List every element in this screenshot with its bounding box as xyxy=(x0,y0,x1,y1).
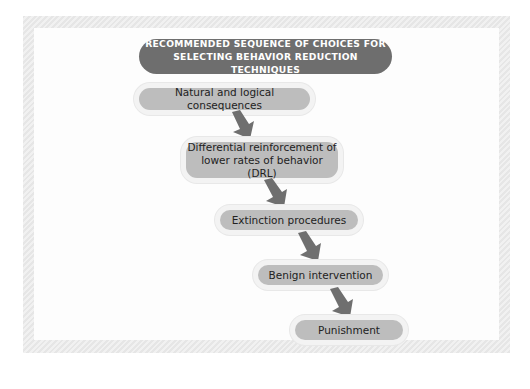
step-label: Extinction procedures xyxy=(232,214,347,227)
step-punishment: Punishment xyxy=(295,320,403,340)
step-label-line-2: lower rates of behavior (DRL) xyxy=(186,154,338,180)
diagram-title-line-2: SELECTING BEHAVIOR REDUCTION TECHNIQUES xyxy=(139,50,392,76)
step-label: Natural and logical consequences xyxy=(139,86,310,112)
step-benign-intervention: Benign intervention xyxy=(258,265,383,285)
down-right-arrow-icon xyxy=(296,231,328,263)
step-extinction-procedures: Extinction procedures xyxy=(220,210,358,230)
step-label: Punishment xyxy=(318,324,380,337)
step-differential-reinforcement-drl: Differential reinforcement of lower rate… xyxy=(186,142,338,178)
step-label-line-1: Differential reinforcement of xyxy=(187,141,336,154)
down-right-arrow-icon xyxy=(228,110,260,142)
step-natural-logical-consequences: Natural and logical consequences xyxy=(139,88,310,110)
down-right-arrow-icon xyxy=(262,177,294,209)
step-label: Benign intervention xyxy=(269,269,373,282)
diagram-title: RECOMMENDED SEQUENCE OF CHOICES FOR SELE… xyxy=(139,39,392,74)
diagram-title-line-1: RECOMMENDED SEQUENCE OF CHOICES FOR xyxy=(145,37,386,50)
down-right-arrow-icon xyxy=(328,287,360,319)
